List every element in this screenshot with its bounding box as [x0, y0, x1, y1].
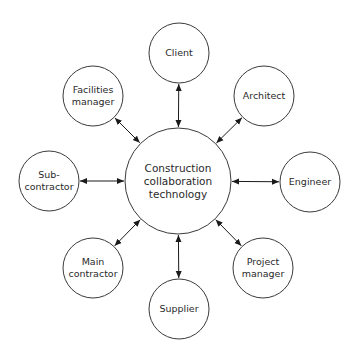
node-label-architect: Architect — [234, 66, 294, 126]
arrow-facilities-manager — [115, 118, 140, 143]
arrow-architect — [216, 118, 242, 143]
node-label-facilities-manager: Facilities manager — [63, 66, 123, 126]
node-label-engineer: Engineer — [280, 152, 340, 212]
hub-and-spoke-diagram: Construction collaboration technologyCli… — [0, 0, 355, 354]
node-label-project-manager: Project manager — [233, 238, 293, 298]
node-label-client: Client — [149, 23, 209, 83]
node-label-sub-contractor: Sub- contractor — [19, 151, 79, 211]
arrow-project-manager — [216, 220, 242, 246]
node-label-construction-collaboration-technology: Construction collaboration technology — [125, 128, 231, 234]
arrow-main-contractor — [115, 220, 141, 246]
node-label-supplier: Supplier — [149, 279, 209, 339]
node-label-main-contractor: Main contractor — [63, 238, 123, 298]
